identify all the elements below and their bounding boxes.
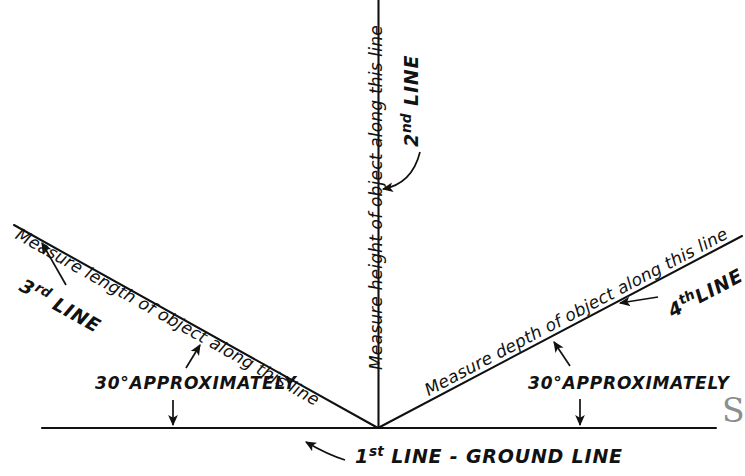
first-line-leader-arrow: [306, 442, 345, 460]
right-angle-annotation: 30°APPROXIMATELY: [528, 373, 730, 393]
left-angle-arrow-to-diagonal: [186, 345, 200, 368]
vertical-line-instruction: Measure height of object along this line: [366, 25, 386, 370]
left-angle-annotation: 30°APPROXIMATELY: [95, 373, 297, 393]
second-line-label: 2nd LINE: [398, 55, 422, 147]
second-line-ordinal: nd: [398, 113, 414, 133]
right-diagonal-line: [378, 236, 742, 428]
first-line-number: 1: [355, 445, 369, 467]
first-line-label: 1st LINE - GROUND LINE: [355, 443, 623, 467]
second-line-number: 2: [400, 133, 422, 147]
second-line-word: LINE: [400, 55, 422, 106]
second-line-leader-arrow: [383, 152, 420, 189]
corner-watermark-letter: S: [722, 391, 745, 430]
right-angle-arrow-to-diagonal: [554, 342, 570, 366]
diagram-canvas: Measure length of object along this line…: [0, 0, 745, 476]
first-line-word: LINE - GROUND LINE: [391, 445, 623, 467]
first-line-ordinal: st: [369, 443, 384, 459]
